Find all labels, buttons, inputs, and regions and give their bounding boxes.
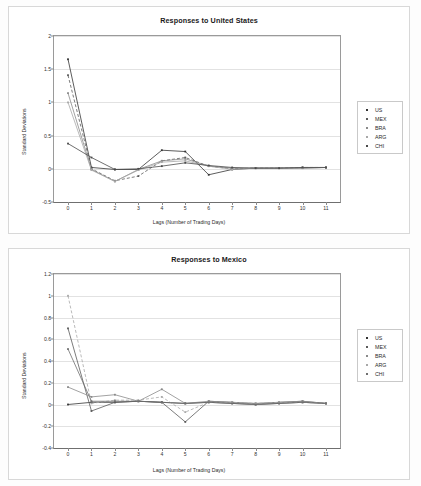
legend-item-mex[interactable]: MEX	[361, 342, 398, 351]
data-point	[67, 327, 69, 329]
x-tick-label: 8	[254, 451, 257, 457]
chart-title: Responses to Mexico	[9, 255, 409, 264]
chart-responses-to-united-states: Responses to United States Standard Devi…	[8, 6, 410, 234]
series-line-mex	[68, 328, 326, 422]
x-tick-label: 10	[300, 451, 306, 457]
x-tick-label: 11	[323, 451, 328, 457]
legend-marker-icon	[361, 109, 373, 111]
data-point	[278, 167, 280, 169]
y-tick-label: -0.2	[42, 423, 51, 429]
legend-item-chi[interactable]: CHI	[361, 141, 398, 150]
data-point	[161, 161, 163, 163]
legend-marker-icon	[361, 136, 373, 138]
legend-marker-icon	[361, 145, 373, 147]
plot-area: -0.500.511.5201234567891011	[53, 35, 341, 203]
legend-label: MEX	[375, 116, 386, 122]
legend-item-chi[interactable]: CHI	[361, 369, 398, 378]
data-point	[67, 386, 69, 388]
data-point	[231, 167, 233, 169]
data-point	[137, 175, 139, 177]
data-point	[231, 169, 233, 171]
legend-marker-icon	[361, 337, 373, 339]
data-point	[184, 151, 186, 153]
legend-item-us[interactable]: US	[361, 333, 398, 342]
series-line-chi	[68, 144, 326, 170]
legend-marker-icon	[361, 373, 373, 375]
x-tick-label: 10	[300, 205, 306, 211]
chart-title: Responses to United States	[9, 16, 409, 25]
data-point	[161, 149, 163, 151]
legend-label: CHI	[375, 143, 384, 149]
y-tick-label: 1	[48, 293, 51, 299]
x-tick-label: 1	[90, 205, 93, 211]
x-axis-label: Lags (Number of Trading Days)	[39, 219, 339, 225]
series-line-chi	[68, 349, 326, 404]
y-tick-label: 0.4	[44, 358, 51, 364]
data-point	[161, 396, 163, 398]
data-point	[137, 400, 139, 402]
x-tick-label: 9	[278, 205, 281, 211]
data-point	[67, 92, 69, 94]
series-layer	[54, 274, 340, 448]
data-point	[208, 165, 210, 167]
chart-legend: USMEXBRAARGCHI	[357, 329, 403, 382]
y-tick-label: 0.5	[44, 133, 51, 139]
legend-item-bra[interactable]: BRA	[361, 351, 398, 360]
legend-label: MEX	[375, 344, 386, 350]
y-tick-label: 2	[48, 33, 51, 39]
x-tick-label: 0	[67, 205, 70, 211]
y-tick-label: 0.8	[44, 315, 51, 321]
x-tick-label: 6	[207, 205, 210, 211]
x-tick-label: 7	[231, 451, 234, 457]
series-line-arg	[68, 102, 326, 181]
series-layer	[54, 36, 340, 202]
data-point	[208, 401, 210, 403]
data-point	[325, 403, 327, 405]
legend-marker-icon	[361, 118, 373, 120]
x-tick-label: 7	[231, 205, 234, 211]
x-tick-label: 9	[278, 451, 281, 457]
data-point	[184, 421, 186, 423]
legend-item-bra[interactable]: BRA	[361, 123, 398, 132]
data-point	[91, 403, 93, 405]
y-tick-label: -0.4	[42, 445, 51, 451]
data-point	[67, 404, 69, 406]
x-tick-label: 2	[113, 451, 116, 457]
data-point	[184, 158, 186, 160]
data-point	[114, 169, 116, 171]
legend-label: BRA	[375, 353, 386, 359]
x-tick-label: 4	[160, 451, 163, 457]
y-tick-label: 1.2	[44, 271, 51, 277]
legend-label: US	[375, 335, 382, 341]
legend-item-arg[interactable]: ARG	[361, 132, 398, 141]
y-tick-label: 0.6	[44, 336, 51, 342]
data-point	[114, 400, 116, 402]
x-tick-label: 3	[137, 451, 140, 457]
data-point	[67, 348, 69, 350]
x-tick-label: 3	[137, 205, 140, 211]
x-tick-label: 4	[160, 205, 163, 211]
data-point	[255, 167, 257, 169]
legend-marker-icon	[361, 346, 373, 348]
x-tick-label: 5	[184, 451, 187, 457]
y-tick-label: 0.2	[44, 380, 51, 386]
data-point	[91, 169, 93, 171]
data-point	[114, 181, 116, 183]
legend-label: ARG	[375, 134, 386, 140]
legend-item-arg[interactable]: ARG	[361, 360, 398, 369]
data-point	[161, 388, 163, 390]
legend-label: US	[375, 107, 382, 113]
legend-item-mex[interactable]: MEX	[361, 114, 398, 123]
data-point	[67, 143, 69, 145]
legend-marker-icon	[361, 127, 373, 129]
legend-item-us[interactable]: US	[361, 105, 398, 114]
figure-page: Responses to United States Standard Devi…	[0, 0, 421, 486]
x-tick-label: 8	[254, 205, 257, 211]
data-point	[67, 74, 69, 76]
data-point	[67, 58, 69, 60]
y-tick-label: 0	[48, 166, 51, 172]
data-point	[208, 174, 210, 176]
data-point	[184, 411, 186, 413]
series-line-us	[68, 59, 326, 175]
chart-legend: USMEXBRAARGCHI	[357, 101, 403, 154]
